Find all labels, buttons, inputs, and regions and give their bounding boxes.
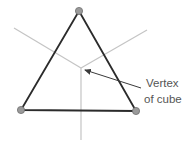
triangle-vertex-dots	[17, 7, 139, 114]
cross-section-triangle	[21, 11, 136, 111]
cube-edge-upper-left	[14, 28, 81, 68]
vertex-dot-top	[75, 7, 82, 14]
cube-vertex-triangle-diagram: Vertex of cube	[0, 0, 187, 149]
vertex-dot-bottom-left	[17, 106, 24, 113]
vertex-pointer-arrow	[85, 70, 141, 88]
vertex-dot-bottom-right	[132, 107, 139, 114]
vertex-label-line1: Vertex	[146, 77, 179, 89]
vertex-label-line2: of cube	[144, 93, 182, 105]
cube-edge-upper-right	[81, 30, 147, 68]
